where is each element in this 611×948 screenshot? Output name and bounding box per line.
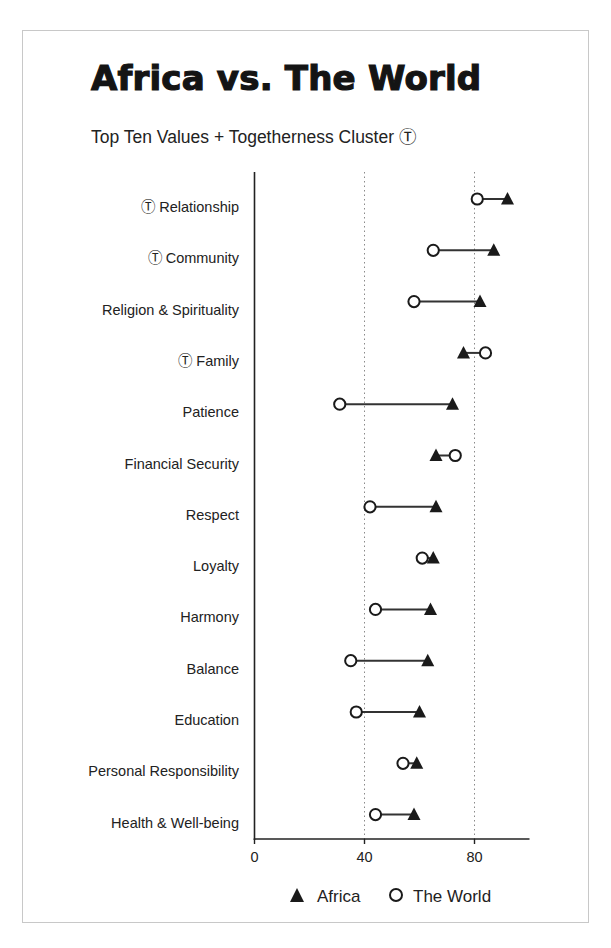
row-family: Ⓣ Family bbox=[178, 346, 491, 369]
world-circle-marker bbox=[364, 501, 375, 512]
world-circle-marker bbox=[397, 758, 408, 769]
world-circle-marker bbox=[480, 347, 491, 358]
row-harmony: Harmony bbox=[180, 602, 437, 625]
row-respect: Respect bbox=[186, 500, 443, 523]
dumbbell-plot: 04080 Ⓣ RelationshipⓉ CommunityReligion … bbox=[0, 0, 611, 948]
row-health-well-being: Health & Well-being bbox=[111, 808, 420, 831]
row-relationship: Ⓣ Relationship bbox=[141, 192, 514, 215]
category-label: Financial Security bbox=[125, 456, 240, 472]
x-tick-label: 0 bbox=[250, 849, 258, 865]
x-tick-label: 40 bbox=[356, 849, 372, 865]
world-circle-marker bbox=[370, 604, 381, 615]
axes: 04080 bbox=[250, 172, 529, 865]
category-label: Health & Well-being bbox=[111, 815, 239, 831]
legend-africa-triangle-icon bbox=[290, 888, 304, 902]
legend-world-circle-icon bbox=[390, 889, 402, 901]
world-circle-marker bbox=[351, 706, 362, 717]
world-circle-marker bbox=[345, 655, 356, 666]
row-community: Ⓣ Community bbox=[148, 243, 501, 266]
category-label: Balance bbox=[187, 661, 239, 677]
category-label: Education bbox=[175, 712, 240, 728]
legend-label-africa: Africa bbox=[317, 887, 361, 906]
category-label: Ⓣ Relationship bbox=[141, 199, 239, 215]
row-education: Education bbox=[175, 705, 427, 728]
world-circle-marker bbox=[370, 809, 381, 820]
row-loyalty: Loyalty bbox=[193, 551, 440, 574]
gridlines bbox=[365, 172, 475, 839]
row-personal-responsibility: Personal Responsibility bbox=[88, 756, 423, 779]
x-tick-label: 80 bbox=[466, 849, 482, 865]
category-label: Personal Responsibility bbox=[88, 763, 239, 779]
world-circle-marker bbox=[428, 245, 439, 256]
world-circle-marker bbox=[472, 193, 483, 204]
row-balance: Balance bbox=[187, 654, 435, 677]
category-label: Harmony bbox=[180, 609, 240, 625]
category-label: Ⓣ Community bbox=[148, 250, 240, 266]
legend: AfricaThe World bbox=[290, 887, 491, 906]
category-label: Religion & Spirituality bbox=[102, 302, 240, 318]
world-circle-marker bbox=[450, 450, 461, 461]
legend-label-world: The World bbox=[413, 887, 491, 906]
category-label: Ⓣ Family bbox=[178, 353, 239, 369]
row-patience: Patience bbox=[183, 397, 459, 420]
data-rows: Ⓣ RelationshipⓉ CommunityReligion & Spir… bbox=[88, 192, 514, 831]
row-religion-spirituality: Religion & Spirituality bbox=[102, 295, 487, 318]
category-label: Loyalty bbox=[193, 558, 240, 574]
world-circle-marker bbox=[334, 399, 345, 410]
row-financial-security: Financial Security bbox=[125, 449, 461, 472]
category-label: Patience bbox=[183, 404, 239, 420]
category-label: Respect bbox=[186, 507, 239, 523]
world-circle-marker bbox=[417, 553, 428, 564]
world-circle-marker bbox=[408, 296, 419, 307]
